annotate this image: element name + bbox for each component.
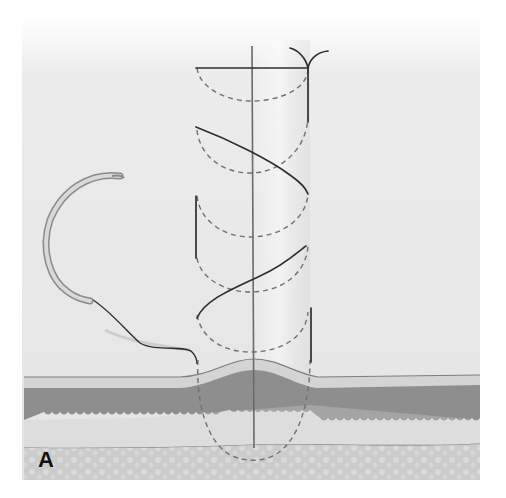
suture-illustration bbox=[0, 0, 506, 498]
panel-label: A bbox=[38, 447, 54, 473]
deep-tissue bbox=[24, 444, 480, 480]
incision-highlight bbox=[250, 40, 310, 380]
